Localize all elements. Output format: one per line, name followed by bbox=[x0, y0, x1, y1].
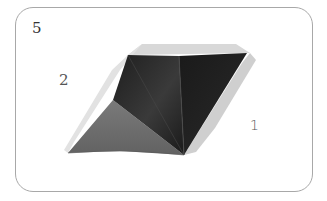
folded-shape-illustration bbox=[0, 0, 327, 201]
top-edge-band bbox=[128, 44, 250, 55]
right-dark-face bbox=[179, 53, 247, 155]
